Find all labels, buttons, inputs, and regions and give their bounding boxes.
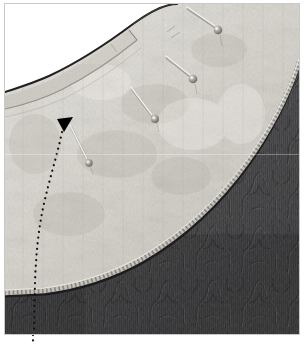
dotted-guide-tail xyxy=(4,335,300,344)
screenshot-root xyxy=(0,0,307,344)
scan-band xyxy=(5,154,299,155)
black-triangle-marker xyxy=(57,117,73,132)
photo-frame xyxy=(4,3,300,335)
photograph xyxy=(5,4,299,334)
dotted-guide-left xyxy=(34,132,62,334)
annotation-layer xyxy=(5,4,299,334)
